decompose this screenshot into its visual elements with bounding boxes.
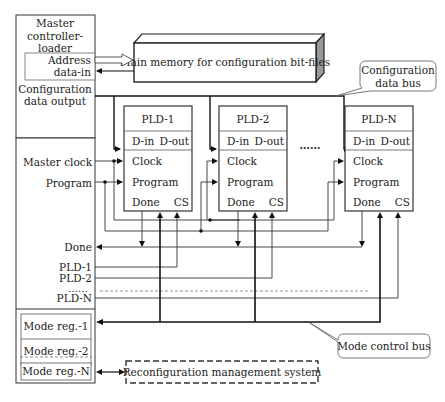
config-bus-callout: Configuration data bus [336,61,436,96]
controller-title-1: Master [36,17,75,29]
pld-n-dout: D-out [381,135,411,147]
done-label: Done [64,241,92,253]
pld-2: PLD-2 D-in D-out Clock Program Done CS [219,106,287,211]
pldn-line-label: PLD-N [57,292,92,304]
pld-1-program: Program [132,176,178,188]
master-clock-label: Master clock [23,156,93,168]
mode-reg-n: Mode reg.-N [22,365,89,377]
pld-2-title: PLD-2 [237,113,270,125]
pld-2-cs: CS [269,196,284,208]
main-memory-label: Main memory for configuration bit-files [120,56,330,68]
master-controller-loader: Master controller- loader Address data-i… [16,15,95,383]
mode-reg-1: Mode reg.-1 [24,320,89,332]
pld-1: PLD-1 D-in D-out Clock Program Done CS [124,106,192,211]
pld-n: PLD-N D-in D-out Clock Program Done CS [345,106,413,211]
program-label: Program [46,177,92,189]
config-bus-label-2: data bus [375,77,421,89]
pld-1-din: D-in [132,135,155,147]
config-output-label-2: data output [24,95,87,107]
pld-n-program: Program [353,176,399,188]
pld-n-din: D-in [353,135,376,147]
pld-1-clock: Clock [132,155,163,167]
reconfig-management: Reconfiguration management system [96,361,321,383]
address-label: Address [47,54,91,66]
pld-n-clock: Clock [353,155,384,167]
config-output-label-1: Configuration [18,83,92,95]
controller-title-3: loader [38,42,73,54]
mode-control-bus [99,216,380,322]
config-bus-label-1: Configuration [361,64,435,76]
pld-1-done: Done [132,196,160,208]
datain-label: data-in [54,66,91,78]
controller-title-2: controller- [27,30,83,42]
mode-bus-callout: Mode control bus [310,323,431,358]
pld-n-done: Done [353,196,381,208]
pld-2-dout: D-out [255,135,285,147]
pld-2-din: D-in [227,135,250,147]
pld-1-dout: D-out [160,135,190,147]
pld-ellipsis: …… [300,139,321,151]
main-memory: Main memory for configuration bit-files [120,34,330,82]
pld-1-title: PLD-1 [142,113,175,125]
pld-n-cs: CS [395,196,410,208]
mode-reg-2: Mode reg.-2 [24,345,89,357]
reconfig-label: Reconfiguration management system [123,366,322,378]
cs-lines [95,215,398,298]
pld-configuration-diagram: Master controller- loader Address data-i… [0,0,445,402]
pld-2-done: Done [227,196,255,208]
pld-1-cs: CS [174,196,189,208]
pld-n-title: PLD-N [361,113,396,125]
pld-2-clock: Clock [227,155,258,167]
mode-bus-label: Mode control bus [337,340,430,352]
pld-2-program: Program [227,176,273,188]
